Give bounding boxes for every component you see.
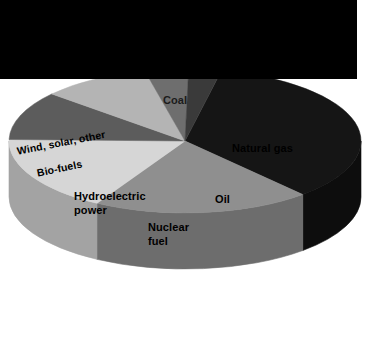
top-black-banner — [0, 0, 357, 79]
pie-slices-group: CoalNatural gasOilNuclear fuelHydroelect… — [9, 69, 361, 269]
chart-canvas: CoalNatural gasOilNuclear fuelHydroelect… — [0, 0, 375, 360]
